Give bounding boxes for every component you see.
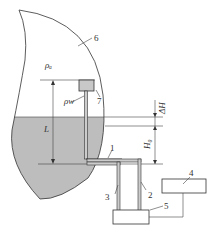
symbol-rho-a: ρₐ: [44, 60, 52, 70]
arrow-down-icon: [153, 160, 157, 164]
arrow-up-icon: [153, 126, 157, 130]
pipe-3-horizontal: [87, 162, 120, 165]
label-7: 7: [97, 96, 102, 106]
label-3: 3: [105, 192, 110, 202]
leader-5: [150, 206, 163, 210]
label-5: 5: [164, 201, 169, 211]
symbol-L: L: [43, 124, 49, 134]
label-4: 4: [189, 168, 194, 178]
diagram-canvas: 6 7 1 2 3 4 5 ρₐ ρw L ΔH H₀: [0, 0, 218, 237]
pipe-2-vertical: [138, 159, 141, 212]
pipe-2-horizontal: [87, 159, 141, 162]
symbol-H0: H₀: [142, 139, 152, 150]
label-1: 1: [110, 143, 115, 153]
box-5: [113, 210, 149, 224]
box-4: [162, 179, 206, 193]
leader-2: [141, 182, 146, 190]
symbol-delta-H: ΔH: [157, 102, 167, 115]
sensor-7: [79, 80, 94, 91]
label-2: 2: [148, 190, 153, 200]
arrow-up-icon: [51, 80, 55, 85]
label-6: 6: [94, 33, 99, 43]
symbol-rho-w: ρw: [63, 96, 74, 106]
sensor-tube: [85, 91, 88, 159]
